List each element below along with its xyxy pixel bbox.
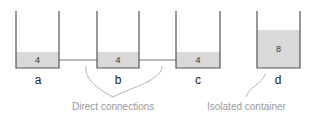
isolated-container-arrow <box>246 73 266 97</box>
direct-connections-caption: Direct connections <box>72 101 154 112</box>
value-d: 8 <box>257 44 300 54</box>
container-d <box>257 11 300 68</box>
value-c: 4 <box>176 55 220 65</box>
label-d: d <box>268 73 288 87</box>
value-b: 4 <box>97 55 139 65</box>
label-b: b <box>108 73 128 87</box>
label-c: c <box>188 73 208 87</box>
value-a: 4 <box>16 55 59 65</box>
label-a: a <box>28 73 48 87</box>
isolated-container-caption: Isolated container <box>207 101 286 112</box>
